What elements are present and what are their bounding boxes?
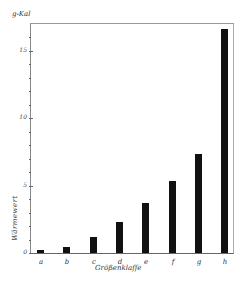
bar-g (195, 154, 202, 253)
bar-c (90, 237, 97, 253)
y-tick-mark (29, 253, 33, 254)
y-tick-mark (29, 145, 31, 146)
x-tick-label: a (36, 258, 46, 266)
y-tick-mark (29, 159, 31, 160)
y-tick-label: 10 (13, 113, 27, 120)
plot-frame (30, 23, 234, 254)
y-tick-mark (29, 226, 31, 227)
y-tick-mark (29, 199, 31, 200)
y-tick-mark (29, 118, 33, 119)
y-tick-mark (29, 91, 31, 92)
x-tick-label: e (141, 258, 151, 266)
x-tick-label: h (220, 258, 230, 266)
bar-chart: g-Kal 051015 abcdefgh Größenklaſſe Wärme… (0, 0, 246, 283)
bar-a (37, 250, 44, 253)
y-unit-label: g-Kal (12, 10, 31, 18)
x-tick-label: g (194, 258, 204, 266)
y-tick-label: 15 (13, 46, 27, 53)
y-tick-mark (29, 213, 31, 214)
y-tick-mark (29, 78, 31, 79)
y-tick-mark (29, 240, 31, 241)
x-axis-label: Größenklaſſe (95, 264, 141, 272)
y-tick-mark (29, 186, 33, 187)
y-tick-mark (29, 105, 31, 106)
bar-b (63, 247, 70, 253)
bar-d (116, 222, 123, 253)
x-tick-label: f (168, 258, 178, 266)
y-tick-mark (29, 37, 31, 38)
y-tick-label: 0 (13, 248, 27, 255)
y-tick-mark (29, 172, 31, 173)
y-tick-label: 5 (13, 181, 27, 188)
bar-e (142, 203, 149, 253)
bar-h (221, 29, 228, 253)
y-tick-mark (29, 64, 31, 65)
y-tick-mark (29, 132, 31, 133)
y-tick-mark (29, 51, 33, 52)
bar-f (169, 181, 176, 253)
y-axis-label: Wärmewert (11, 193, 19, 243)
x-tick-label: b (62, 258, 72, 266)
